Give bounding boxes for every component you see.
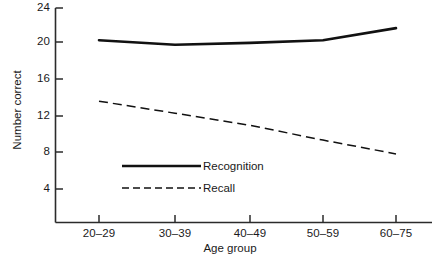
- x-tick-label-50-59: 50–59: [293, 227, 353, 239]
- series-line-recall: [99, 101, 396, 154]
- y-tick-label-4: 4: [16, 182, 50, 194]
- series-line-recognition: [99, 28, 396, 45]
- plot-area: [0, 0, 435, 263]
- x-tick-label-20-29: 20–29: [69, 227, 129, 239]
- y-axis-title: Number correct: [11, 45, 23, 175]
- x-axis-title: Age group: [170, 242, 290, 254]
- line-chart-figure: 24 20 16 12 8 4 20–29 30–39 40–49 50–59 …: [0, 0, 435, 263]
- legend-label-recognition: Recognition: [203, 160, 264, 172]
- legend-label-recall: Recall: [203, 182, 235, 194]
- x-tick-label-60-75: 60–75: [366, 227, 426, 239]
- x-tick-label-40-49: 40–49: [220, 227, 280, 239]
- y-tick-label-24: 24: [16, 1, 50, 13]
- x-tick-label-30-39: 30–39: [145, 227, 205, 239]
